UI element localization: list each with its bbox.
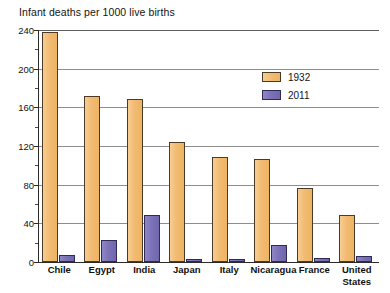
x-tick-label: Japan <box>166 264 209 276</box>
x-tick-label: France <box>293 264 336 276</box>
bar <box>59 255 75 262</box>
bar <box>297 188 313 262</box>
bar <box>254 159 270 262</box>
y-tick-label: 160 <box>0 102 34 113</box>
bar <box>42 32 58 262</box>
legend-item: 2011 <box>262 88 336 102</box>
bar <box>186 259 202 262</box>
bar <box>101 240 117 262</box>
y-tick-label: 40 <box>0 218 34 229</box>
bar <box>356 256 372 262</box>
x-axis-labels: ChileEgyptIndiaJapanItalyNicaraguaFrance… <box>38 264 378 292</box>
y-tick-mark-major <box>34 30 38 31</box>
y-tick-mark-minor <box>35 127 38 128</box>
y-tick-mark-minor <box>35 243 38 244</box>
bar <box>229 259 245 262</box>
y-tick-mark-minor <box>35 204 38 205</box>
y-axis-labels: 04080120160200240 <box>0 30 34 262</box>
y-tick-label: 0 <box>0 257 34 268</box>
legend-swatch-icon <box>262 72 281 82</box>
y-tick-mark-major <box>34 185 38 186</box>
bar <box>212 157 228 262</box>
bar <box>84 96 100 262</box>
legend-label: 1932 <box>288 72 310 83</box>
chart-legend: 19322011 <box>262 70 336 106</box>
y-tick-mark-minor <box>35 165 38 166</box>
y-tick-label: 80 <box>0 179 34 190</box>
x-tick-label: Egypt <box>81 264 124 276</box>
y-tick-mark-minor <box>35 49 38 50</box>
plot-area <box>38 30 379 263</box>
x-tick-label: UnitedStates <box>336 264 379 287</box>
y-tick-label: 200 <box>0 63 34 74</box>
y-tick-mark-minor <box>35 88 38 89</box>
x-tick-label: Italy <box>208 264 251 276</box>
legend-swatch-icon <box>262 90 281 100</box>
y-tick-mark-major <box>34 223 38 224</box>
x-tick-label: India <box>123 264 166 276</box>
bar <box>314 258 330 262</box>
bar <box>271 245 287 262</box>
bar <box>127 99 143 262</box>
bar <box>169 142 185 262</box>
y-tick-label: 120 <box>0 141 34 152</box>
x-tick-label: Nicaragua <box>251 264 294 276</box>
y-tick-mark-major <box>34 146 38 147</box>
legend-item: 1932 <box>262 70 336 84</box>
chart-title: Infant deaths per 1000 live births <box>19 6 175 18</box>
y-tick-label: 240 <box>0 25 34 36</box>
y-tick-mark-major <box>34 69 38 70</box>
y-tick-mark-major <box>34 107 38 108</box>
bar <box>144 215 160 262</box>
x-tick-label: Chile <box>38 264 81 276</box>
bar-chart: Infant deaths per 1000 live births 04080… <box>0 0 390 293</box>
y-tick-mark-major <box>34 262 38 263</box>
gridline <box>39 30 379 31</box>
bar <box>339 215 355 262</box>
legend-label: 2011 <box>288 90 310 101</box>
